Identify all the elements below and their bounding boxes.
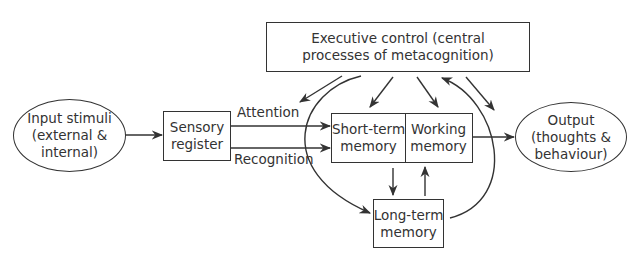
long-term-memory-box: Long-term memory: [373, 199, 444, 248]
input-stimuli-ellipse: Input stimuli (external & internal): [13, 99, 126, 172]
short-term-memory-line-1: Short-term: [332, 121, 405, 138]
working-memory-line-1: Working: [411, 121, 466, 138]
attention-label: Attention: [237, 104, 299, 121]
arrow-exec-to-stm: [370, 77, 393, 107]
output-line-3: behaviour): [534, 146, 607, 163]
input-stimuli-line-3: internal): [41, 144, 98, 161]
arrow-exec-to-wm: [417, 77, 438, 107]
output-line-2: (thoughts &: [531, 129, 611, 146]
executive-control-box: Executive control (central processes of …: [266, 22, 530, 72]
short-term-memory-box: Short-term memory: [331, 113, 406, 163]
sensory-register-box: Sensory register: [163, 111, 231, 161]
input-stimuli-line-1: Input stimuli: [27, 110, 112, 127]
executive-control-line-1: Executive control (central: [311, 30, 485, 47]
output-ellipse: Output (thoughts & behaviour): [515, 102, 627, 172]
executive-control-line-2: processes of metacognition): [302, 47, 494, 64]
output-line-1: Output: [548, 112, 595, 129]
arrow-exec-to-output: [466, 77, 494, 110]
input-stimuli-line-2: (external &: [32, 127, 108, 144]
short-term-memory-line-2: memory: [340, 138, 396, 155]
sensory-register-line-1: Sensory: [170, 119, 224, 136]
working-memory-box: Working memory: [405, 113, 473, 163]
long-term-memory-line-1: Long-term: [374, 207, 444, 224]
recognition-label: Recognition: [234, 151, 314, 168]
working-memory-line-2: memory: [410, 138, 466, 155]
sensory-register-line-2: register: [171, 136, 223, 153]
long-term-memory-line-2: memory: [380, 224, 436, 241]
